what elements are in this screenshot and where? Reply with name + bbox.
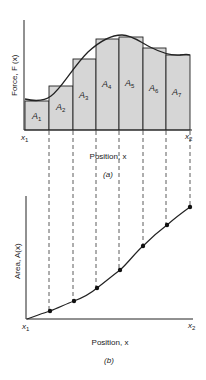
figure-b: Area, A(x) x1 x2 Position, x (b) (13, 196, 196, 365)
area-point-5 (141, 244, 145, 248)
area-point-3 (95, 286, 99, 290)
diagram: Force, F (x) A1 A2 A3 A4 A5 A6 A7 x1 x2 … (0, 0, 206, 380)
x-axis-label-b: Position, x (92, 338, 129, 347)
y-axis-label-b: Area, A(x) (13, 243, 22, 279)
area-point-6 (165, 223, 169, 227)
x2-label-a: x2 (184, 132, 193, 142)
caption-a: (a) (103, 170, 113, 179)
area-point-2 (72, 299, 76, 303)
x2-label-b: x2 (187, 321, 196, 331)
area-point-4 (118, 268, 122, 272)
y-axis-label-a: Force, F (x) (10, 54, 19, 96)
figure-a: Force, F (x) A1 A2 A3 A4 A5 A6 A7 x1 x2 … (10, 20, 193, 179)
caption-b: (b) (104, 356, 114, 365)
x1-label-b: x1 (21, 322, 30, 332)
area-point-1 (48, 309, 52, 313)
area-points (48, 205, 192, 313)
area-point-7 (188, 205, 192, 209)
x-axis-label-a: Position, x (90, 152, 127, 161)
x1-label-a: x1 (20, 133, 29, 143)
